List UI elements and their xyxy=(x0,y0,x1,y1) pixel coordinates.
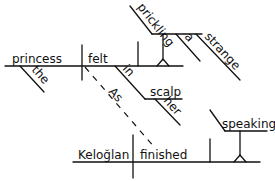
sub-subject-word: Keloğlan xyxy=(78,148,129,162)
preposition-in: in xyxy=(120,62,138,80)
conjunction-dashed-line xyxy=(85,67,155,148)
sub-verb-word: finished xyxy=(140,148,187,162)
sub-object-speaking: speaking xyxy=(222,117,275,131)
modifier-strange: strange xyxy=(202,29,244,72)
prep-object-scalp: scalp xyxy=(150,85,181,99)
verb-word: felt xyxy=(88,52,108,66)
sentence-diagram: princess felt the in scalp her prickling… xyxy=(0,0,275,181)
conjunction-as: As xyxy=(106,85,126,105)
complement-prickling-lead: prickling xyxy=(135,0,178,49)
